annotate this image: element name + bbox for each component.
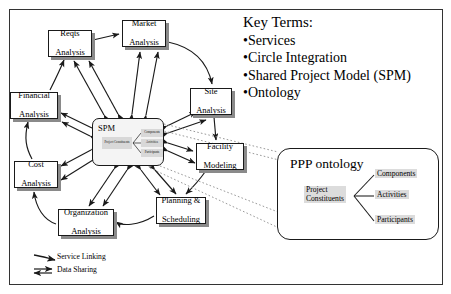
node-cost-analysis[interactable]: Cost Analysis: [14, 161, 58, 188]
ppp-child-activities: Activities: [375, 190, 409, 199]
node-reqts-line1: Reqts: [54, 29, 86, 39]
node-financial-line2: Analysis: [17, 110, 51, 120]
node-site-line1: Site: [195, 87, 227, 97]
legend: Service Linking Data Sharing: [57, 251, 106, 276]
node-reqts-analysis[interactable]: Reqts Analysis: [48, 30, 92, 57]
node-market-line2: Analysis: [128, 38, 160, 48]
node-planning-line2: Scheduling: [161, 215, 202, 225]
ppp-root-label: Project Constituents: [304, 186, 346, 203]
key-terms-item-shared-project-model: •Shared Project Model (SPM): [243, 67, 411, 85]
ppp-ontology-connectors: [278, 149, 440, 241]
hub-spm[interactable]: SPM Project Constituents Components Acti…: [92, 118, 164, 166]
key-terms-item-ontology: •Ontology: [243, 84, 411, 102]
node-planning-line1: Planning &: [161, 196, 202, 206]
ppp-child-components: Components: [375, 169, 417, 178]
node-financial-line1: Financial: [17, 91, 51, 101]
key-terms-block: Key Terms: •Services •Circle Integration…: [243, 14, 411, 102]
legend-label-service-linking: Service Linking: [57, 251, 106, 264]
node-planning-scheduling[interactable]: Planning & Scheduling: [156, 197, 206, 224]
node-market-line1: Market: [128, 19, 160, 29]
key-terms-item-services: •Services: [243, 32, 411, 50]
node-financial-analysis[interactable]: Financial Analysis: [10, 92, 58, 119]
hub-mini-activities: Activities: [141, 139, 163, 147]
node-site-line2: Analysis: [195, 106, 227, 116]
node-market-analysis[interactable]: Market Analysis: [122, 20, 166, 47]
key-terms-heading: Key Terms:: [243, 14, 411, 32]
node-organization-analysis[interactable]: Organization Analysis: [58, 209, 114, 236]
ppp-ontology-inset[interactable]: PPP ontology Project Constituents Compon…: [277, 148, 439, 240]
node-organization-line2: Analysis: [63, 227, 109, 237]
node-facility-modeling[interactable]: Facility Modeling: [196, 143, 244, 170]
key-terms-item-circle-integration: •Circle Integration: [243, 49, 411, 67]
legend-label-data-sharing: Data Sharing: [57, 264, 106, 277]
ppp-root-line2: Constituents: [306, 194, 344, 203]
node-cost-line2: Analysis: [20, 179, 52, 189]
hub-mini-components: Components: [141, 129, 163, 137]
node-facility-line1: Facility: [202, 142, 237, 152]
node-organization-line1: Organization: [63, 208, 109, 218]
hub-mini-participants: Participants: [141, 149, 163, 157]
ppp-child-participants: Participants: [375, 215, 415, 224]
hub-mini-root: Project Constituents: [102, 137, 132, 149]
node-facility-line2: Modeling: [202, 161, 237, 171]
node-cost-line1: Cost: [20, 160, 52, 170]
node-site-analysis[interactable]: Site Analysis: [190, 88, 232, 115]
node-reqts-line2: Analysis: [54, 48, 86, 58]
